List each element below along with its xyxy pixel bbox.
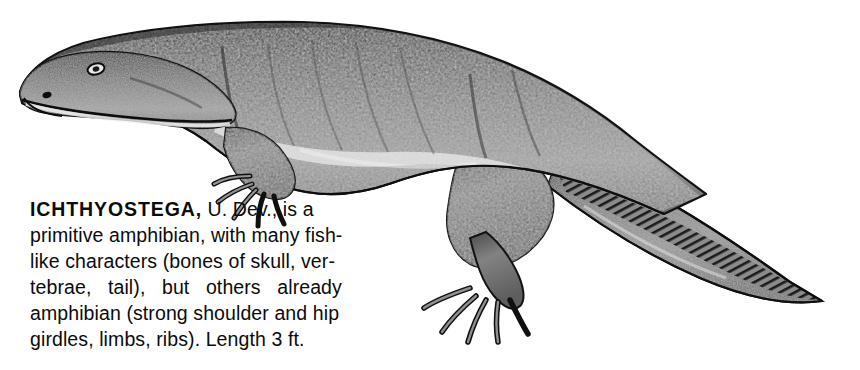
illustration-plate: ICHTHYOSTEGA, U. Dev., is a primitive am… [0,0,860,370]
caption-line-3: like characters (bones of skull, ver- [30,248,368,274]
caption-line-5: amphibian (strong shoulder and hip [30,300,368,326]
caption-line-2: primitive amphibian, with many fish- [30,222,368,248]
caption-block: ICHTHYOSTEGA, U. Dev., is a primitive am… [30,196,368,352]
caption-line-1: ICHTHYOSTEGA, U. Dev., is a [30,196,368,222]
genus-name: ICHTHYOSTEGA, [30,198,202,220]
hindlimb [424,148,554,342]
caption-line-6: girdles, limbs, ribs). Length 3 ft. [30,326,368,352]
caption-line-1-rest: U. Dev., is a [202,198,314,220]
caption-line-4: tebrae, tail), but others already [30,274,368,300]
